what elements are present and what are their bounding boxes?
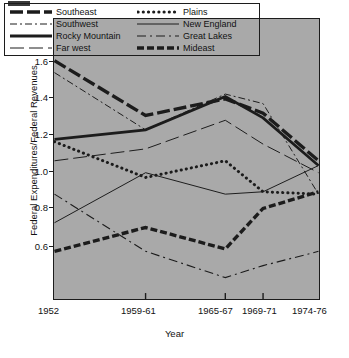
x-tick-label-1959-61: 1959-61 [121,306,156,316]
y-axis-label: Federal Expenditures/Federal Revenues [28,51,39,251]
x-tick-label-1974-76: 1974-76 [292,306,327,316]
series-line-new-england [54,166,318,223]
line-style-swatch-rocky-mountain [10,31,52,41]
legend-column-left: Southeast Southwest Rocky Mountain Far w… [10,6,132,54]
legend-item-mideast: Mideast [137,42,257,54]
line-style-swatch-mideast [137,43,179,53]
plot-lines [54,19,319,299]
x-tick-label-1952: 1952 [38,306,59,316]
line-style-swatch-far-west [10,43,52,53]
legend-label-far-west: Far west [56,43,91,53]
legend-item-far-west: Far west [10,42,132,54]
series-line-great-lakes [54,194,318,277]
legend-label-plains: Plains [183,7,208,17]
line-style-swatch-southeast [10,7,52,17]
line-style-swatch-great-lakes [137,31,179,41]
x-tick-label-1965-67: 1965-67 [198,306,233,316]
x-tick-label-1969-71: 1969-71 [242,306,277,316]
legend-label-mideast: Mideast [183,43,215,53]
series-line-southeast [54,61,318,161]
plot-area [53,18,320,300]
x-axis-label: Year [0,328,349,339]
legend-label-new-england: New England [183,19,237,29]
figure: 1.6 1.4 1.2 1.0 0.8 0.6 1952 1959-61 196… [0,0,349,358]
series-line-plains [54,142,318,194]
legend-item-new-england: New England [137,18,257,30]
legend-label-rocky-mountain: Rocky Mountain [56,31,121,41]
legend-item-plains: Plains [137,6,257,18]
legend-label-southwest: Southwest [56,19,98,29]
series-line-far-west [54,120,318,172]
legend-label-great-lakes: Great Lakes [183,31,232,41]
legend-item-great-lakes: Great Lakes [137,30,257,42]
line-style-swatch-new-england [137,19,179,29]
line-style-swatch-plains [137,7,179,17]
series-line-southwest [54,73,318,195]
legend-item-southeast: Southeast [10,6,132,18]
legend-label-southeast: Southeast [56,7,97,17]
legend-item-rocky-mountain: Rocky Mountain [10,30,132,42]
legend: Southeast Southwest Rocky Mountain Far w… [4,3,260,56]
line-style-swatch-southwest [10,19,52,29]
legend-item-southwest: Southwest [10,18,132,30]
legend-column-right: Plains New England Great Lakes Mideast [137,6,257,54]
